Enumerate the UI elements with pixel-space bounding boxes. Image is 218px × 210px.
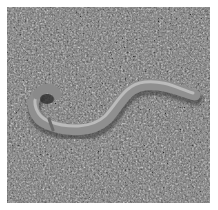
earthworm-photo [7, 7, 210, 203]
photo-canvas [7, 7, 210, 203]
curl-shadow [40, 94, 54, 104]
